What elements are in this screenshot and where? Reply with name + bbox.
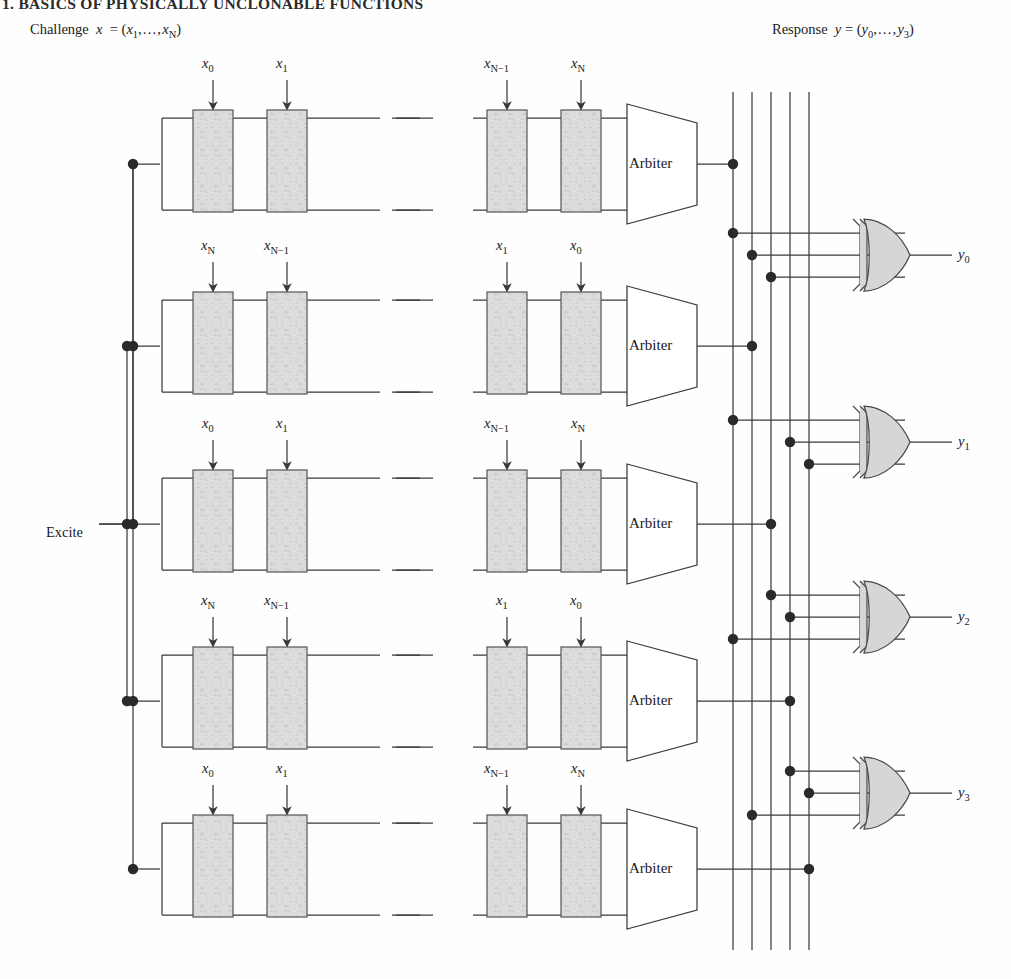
delay-stage (267, 110, 307, 212)
junction-dot (128, 696, 138, 706)
arbiter-label-4: Arbiter (629, 693, 672, 708)
challenge-bit-label: x1 (496, 238, 508, 256)
arbiter-label-1: Arbiter (629, 156, 672, 171)
delay-stage (487, 647, 527, 749)
challenge-bit-label: x1 (276, 56, 288, 74)
junction-dot (128, 519, 138, 529)
delay-stage (193, 110, 233, 212)
challenge-bit-label: xN−1 (484, 56, 509, 74)
challenge-bit-label: xN−1 (264, 593, 289, 611)
junction-dot (804, 788, 814, 798)
junction-dot (747, 810, 757, 820)
puf-chain-row-4 (127, 617, 790, 761)
xor-gate (864, 406, 910, 478)
delay-stage (487, 110, 527, 212)
arbiter-label-5: Arbiter (629, 861, 672, 876)
challenge-bit-label: x0 (202, 416, 214, 434)
excite-distribution (99, 164, 133, 869)
puf-schematic (0, 0, 1011, 979)
junction-dot (128, 159, 138, 169)
challenge-bit-label: xN−1 (264, 238, 289, 256)
challenge-bit-label: x0 (570, 593, 582, 611)
output-label-y1: y1 (958, 434, 970, 452)
challenge-bit-label: xN (571, 56, 585, 74)
xor-gate (864, 581, 910, 653)
delay-stage (561, 292, 601, 394)
xor-gate-group-1 (733, 219, 952, 291)
delay-stage (487, 292, 527, 394)
puf-chain-row-3 (99, 440, 771, 584)
arbiter-label-3: Arbiter (629, 516, 672, 531)
delay-stage (267, 470, 307, 572)
challenge-bit-label: xN−1 (484, 761, 509, 779)
delay-stage (267, 815, 307, 917)
junction-dot (728, 415, 738, 425)
junction-dot (785, 437, 795, 447)
challenge-bit-label: x0 (202, 56, 214, 74)
delay-stage (267, 292, 307, 394)
challenge-bit-label: xN−1 (484, 416, 509, 434)
puf-chain-row-2 (127, 262, 752, 406)
arbiter-label-2: Arbiter (629, 338, 672, 353)
junction-dot (785, 766, 795, 776)
output-label-y2: y2 (958, 609, 970, 627)
challenge-bit-label: x0 (202, 761, 214, 779)
challenge-bit-label: x1 (496, 593, 508, 611)
challenge-bit-label: xN (571, 416, 585, 434)
challenge-bit-label: xN (201, 593, 215, 611)
delay-stage (193, 292, 233, 394)
junction-dot (128, 341, 138, 351)
junction-dot (785, 612, 795, 622)
xor-gate-group-3 (733, 581, 952, 653)
delay-stage (193, 647, 233, 749)
challenge-bit-label: xN (571, 761, 585, 779)
challenge-bit-label: x1 (276, 761, 288, 779)
delay-stage (267, 647, 307, 749)
junction-dot (804, 864, 814, 874)
junction-dot (766, 272, 776, 282)
xor-gate (864, 757, 910, 829)
puf-chain-row-5 (133, 785, 809, 929)
junction-dot (747, 250, 757, 260)
output-label-y0: y0 (958, 247, 970, 265)
xor-gate-group-4 (752, 757, 952, 829)
junction-dot (804, 459, 814, 469)
delay-stage (561, 110, 601, 212)
junction-dot (766, 519, 776, 529)
delay-stage (193, 815, 233, 917)
challenge-bit-label: xN (201, 238, 215, 256)
challenge-bit-label: x0 (570, 238, 582, 256)
junction-dot (728, 159, 738, 169)
figure-page: 1. BASICS OF PHYSICALLY UNCLONABLE FUNCT… (0, 0, 1011, 979)
delay-stage (193, 470, 233, 572)
delay-stage (487, 470, 527, 572)
xor-gate-group-2 (733, 406, 952, 478)
delay-stage (561, 470, 601, 572)
delay-stage (561, 815, 601, 917)
challenge-bit-label: x1 (276, 416, 288, 434)
xor-gate (864, 219, 910, 291)
delay-stage (561, 647, 601, 749)
delay-stage (487, 815, 527, 917)
junction-dot (766, 590, 776, 600)
junction-dot (128, 864, 138, 874)
output-label-y3: y3 (958, 785, 970, 803)
junction-dot (785, 696, 795, 706)
junction-dot (747, 341, 757, 351)
junction-dot (728, 228, 738, 238)
junction-dot (728, 634, 738, 644)
